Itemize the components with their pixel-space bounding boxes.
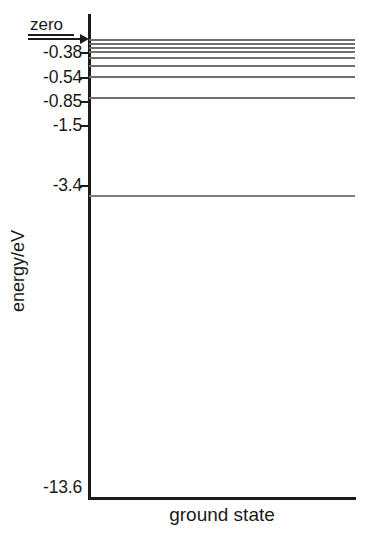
- y-tick-label-1-5: -1.5: [53, 117, 82, 135]
- zero-arrow-shaft-icon: [28, 38, 86, 40]
- energy-level-line: [89, 43, 355, 45]
- energy-level-line: [89, 76, 355, 78]
- x-axis-title: ground state: [88, 505, 356, 524]
- y-axis-line: [88, 14, 91, 500]
- x-axis-ground-state-line: [88, 497, 356, 500]
- y-tick-label-13-6: -13.6: [43, 479, 82, 497]
- energy-level-line: [89, 65, 355, 67]
- energy-level-line: [89, 47, 355, 49]
- y-tick-label-3-4: -3.4: [53, 177, 82, 195]
- y-tick-label-0-38: -0.38: [43, 44, 82, 62]
- zero-underline: [28, 34, 74, 36]
- y-tick-label-0-54: -0.54: [43, 69, 82, 87]
- zero-annotation: zero: [28, 16, 90, 44]
- energy-level-line: [89, 39, 355, 41]
- zero-label: zero: [30, 16, 63, 33]
- energy-level-line: [89, 51, 355, 53]
- energy-level-line: [89, 57, 355, 59]
- energy-level-diagram: zero -0.38 -0.54 -0.85 -1.5 -3.4 -13.6 e…: [0, 0, 365, 545]
- y-axis-title: energy/eV: [9, 211, 27, 331]
- y-tick-label-0-85: -0.85: [43, 93, 82, 111]
- energy-level-line: [89, 195, 355, 197]
- energy-level-line: [89, 97, 355, 99]
